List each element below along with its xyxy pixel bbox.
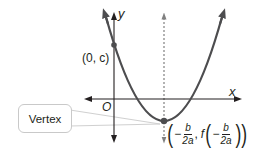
y-intercept-label: (0, c): [82, 51, 109, 65]
parabola-curve: [106, 17, 222, 121]
fraction-b-over-2a: b 2a: [182, 123, 193, 146]
vertex-coordinates: ( − b 2a , f ( − b 2a )): [166, 121, 249, 147]
fraction-b-over-2a-inner: b 2a: [221, 123, 232, 146]
y-intercept-point: [111, 42, 117, 48]
x-axis-label: x: [229, 84, 236, 99]
vertex-callout-label: Vertex: [29, 113, 62, 125]
vertex-callout: Vertex: [18, 104, 72, 133]
y-axis-label: y: [118, 6, 125, 21]
origin-label: O: [102, 100, 111, 114]
